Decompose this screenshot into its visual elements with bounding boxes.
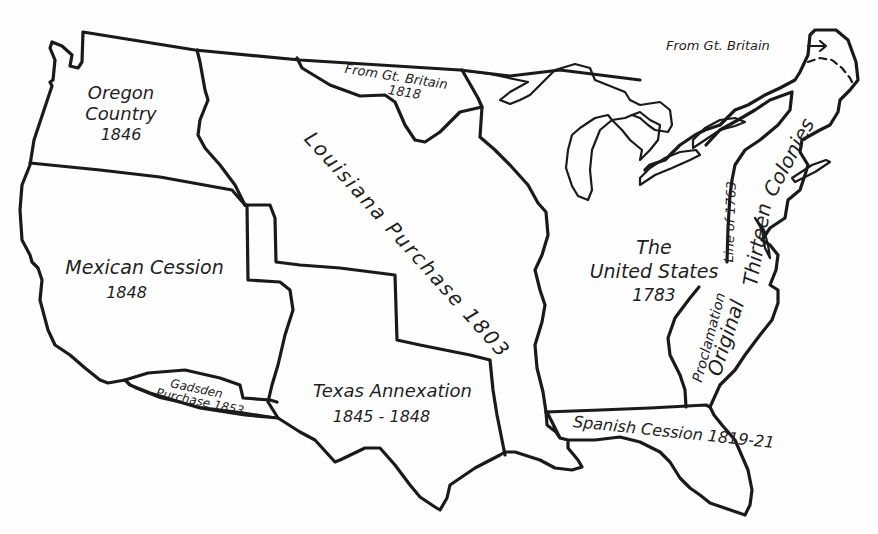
line-1763-text: Line of 1763 (721, 181, 739, 262)
texas-west-border (247, 205, 293, 418)
label-texas: Texas Annexation 1845 - 1848 (300, 382, 485, 425)
us-year: 1783 (584, 287, 724, 304)
territorial-map: Oregon Country 1846 From Gt. Britain 181… (0, 0, 878, 534)
oregon-mexican-border (30, 163, 245, 205)
mexican-name: Mexican Cession (52, 258, 237, 277)
maine-dashed-border (808, 58, 852, 82)
label-maine: From Gt. Britain (666, 39, 770, 52)
oregon-louisiana-border (197, 50, 245, 205)
lake-michigan (566, 115, 612, 200)
mississippi-river (462, 70, 548, 412)
maine-text: From Gt. Britain (666, 38, 770, 53)
texas-year: 1845 - 1848 (300, 409, 463, 425)
north-border (460, 64, 672, 132)
lake-huron (612, 112, 660, 160)
oregon-year: 1846 (76, 127, 166, 143)
texas-name: Texas Annexation (300, 382, 485, 400)
label-line-1763: Line of 1763 (722, 181, 738, 262)
lake-erie (640, 150, 700, 185)
oregon-name-1: Oregon (76, 84, 166, 102)
label-oregon: Oregon Country 1846 (76, 84, 166, 143)
oregon-name-2: Country (76, 105, 166, 123)
label-mexican: Mexican Cession 1848 (52, 258, 237, 301)
us-name-1: The (584, 238, 724, 257)
label-us-1783: The United States 1783 (584, 238, 724, 304)
spanish-cession-border (546, 405, 710, 412)
mexican-year: 1848 (52, 285, 201, 301)
us-name-2: United States (584, 262, 724, 281)
proclamation-line-south (668, 287, 699, 407)
